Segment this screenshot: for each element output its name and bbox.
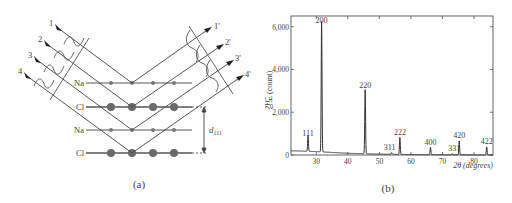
incident-label-3: 3 xyxy=(28,50,32,60)
peak-label-311: 311 xyxy=(384,143,396,152)
y-axis-label: 강도 (count) xyxy=(264,71,274,110)
plane-label-na-1: Na xyxy=(74,78,84,88)
peak-label-222: 222 xyxy=(394,128,406,137)
x-tick-label: 30 xyxy=(313,157,321,166)
peak-label-331: 331 xyxy=(448,144,460,153)
y-tick-label: 4,000 xyxy=(272,65,289,74)
d-spacing-label: d111 xyxy=(209,125,222,136)
peak-label-420: 420 xyxy=(453,131,465,140)
wave-3p xyxy=(206,60,218,92)
figure-canvas: 1 2 3 4 1' 2' 3' 4' Na Cl Na Cl d111 (a)… xyxy=(0,0,512,203)
arrow-icon xyxy=(236,75,244,81)
plane-label-na-2: Na xyxy=(74,125,84,135)
y-tick-label: 6,000 xyxy=(272,23,289,32)
plane-label-cl-1: Cl xyxy=(76,102,85,112)
peak-label-220: 220 xyxy=(359,81,371,90)
reflected-label-1: 1' xyxy=(214,21,220,31)
d111-dimension xyxy=(202,107,206,153)
reflected-ray-4 xyxy=(132,76,242,153)
y-tick-label: 2,000 xyxy=(272,108,289,117)
incident-label-4: 4 xyxy=(18,66,23,76)
plane-labels: Na Cl Na Cl xyxy=(74,78,85,158)
caption-b: (b) xyxy=(382,182,395,195)
x-tick-label: 40 xyxy=(344,157,352,166)
peak-labels: 111200220311222400331420422 xyxy=(302,16,492,153)
peak-label-111: 111 xyxy=(302,129,313,138)
x-tick-label: 60 xyxy=(407,157,415,166)
plane-label-cl-2: Cl xyxy=(76,148,85,158)
wave-2 xyxy=(54,51,74,60)
y-tick-label: 0 xyxy=(285,151,289,160)
arrow-icon xyxy=(216,44,224,50)
peak-label-422: 422 xyxy=(481,137,493,146)
arrow-icon xyxy=(34,56,41,63)
x-tick-label: 70 xyxy=(439,157,447,166)
arrow-icon xyxy=(44,40,51,47)
x-tick-label: 50 xyxy=(376,157,384,166)
reflected-label-3: 3' xyxy=(235,53,241,63)
incident-label-1: 1 xyxy=(49,18,53,28)
incident-ray-2 xyxy=(47,44,132,107)
peak-label-400: 400 xyxy=(425,138,437,147)
incident-wavefront-line xyxy=(50,38,89,100)
x-axis-label: 2θ (degrees) xyxy=(453,161,493,170)
arrow-icon xyxy=(226,60,234,66)
arrow-icon xyxy=(55,24,62,31)
bragg-diffraction-diagram: 1 2 3 4 1' 2' 3' 4' Na Cl Na Cl d111 (a) xyxy=(18,18,251,191)
xrd-chart: 02,0004,0006,000 304050607080 1112002203… xyxy=(264,16,493,195)
peak-label-200: 200 xyxy=(316,16,328,25)
reflected-label-2: 2' xyxy=(225,37,231,47)
caption-a: (a) xyxy=(133,178,146,191)
reflected-label-4: 4' xyxy=(245,69,251,79)
reflected-ray-3 xyxy=(132,61,232,130)
incident-ray-1 xyxy=(58,28,132,83)
incident-ray-3 xyxy=(37,60,132,130)
arrow-icon xyxy=(204,27,212,33)
incident-label-2: 2 xyxy=(38,34,42,44)
